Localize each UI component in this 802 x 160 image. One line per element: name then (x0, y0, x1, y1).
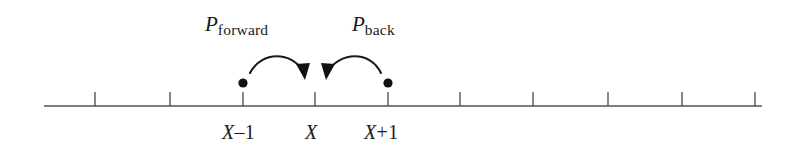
tick-label-x-plus-1: X+1 (364, 122, 398, 142)
state-dot-right (383, 78, 392, 87)
tick-label-x-minus-1: X–1 (222, 122, 255, 142)
forward-arrow-icon (250, 56, 310, 80)
tick-label-x: X (305, 122, 318, 142)
tick-label-base: X (364, 121, 377, 143)
random-walk-diagram: Pforward Pback X–1 X X+1 (0, 0, 802, 160)
forward-probability-label: Pforward (205, 14, 268, 35)
tick-label-number: 1 (245, 121, 255, 143)
back-probability-label: Pback (352, 14, 395, 35)
tick-label-base: X (305, 121, 318, 143)
back-probability-subscript: back (365, 21, 395, 38)
state-dot-left (238, 78, 247, 87)
axis-ticks (95, 92, 755, 106)
back-probability-symbol: P (352, 12, 365, 36)
tick-label-operator: – (235, 121, 245, 143)
forward-probability-subscript: forward (218, 21, 268, 38)
forward-probability-symbol: P (205, 12, 218, 36)
back-arrow-icon (321, 56, 381, 80)
tick-label-operator: + (377, 121, 389, 143)
tick-label-base: X (222, 121, 235, 143)
number-line-graphic (0, 0, 802, 160)
tick-label-number: 1 (388, 121, 398, 143)
